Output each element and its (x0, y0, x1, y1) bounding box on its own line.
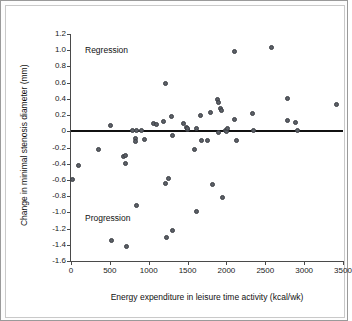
y-tick-mark (67, 245, 71, 246)
data-point (163, 181, 168, 186)
data-point (210, 182, 215, 187)
zero-reference-line (71, 130, 343, 132)
y-tick-label: -0.8 (52, 192, 66, 200)
x-axis-title: Energy expenditure in leisure time activ… (70, 293, 344, 302)
x-tick-mark (265, 261, 266, 265)
x-tick-mark (188, 261, 189, 265)
data-point (293, 120, 298, 125)
y-tick-mark (67, 99, 71, 100)
y-tick-label: -0.4 (52, 160, 66, 168)
data-point (142, 137, 147, 142)
x-tick-mark (71, 261, 72, 265)
x-tick-mark (343, 261, 344, 265)
x-tick-label: 3500 (334, 267, 352, 275)
data-point (96, 147, 101, 152)
data-point (194, 126, 199, 131)
scatter-plot-area: 1.21.00.80.60.40.20-0.2-0.4-0.6-0.8-1.0-… (71, 34, 343, 261)
y-tick-label: -1.4 (52, 241, 66, 249)
data-point (192, 147, 197, 152)
x-tick-mark (226, 261, 227, 265)
data-point (199, 138, 204, 143)
x-tick-label: 500 (103, 267, 116, 275)
y-tick-label: 0.6 (55, 79, 66, 87)
x-axis-line (70, 261, 344, 262)
data-point (269, 45, 274, 50)
y-tick-mark (67, 164, 71, 165)
y-tick-label: -1.6 (52, 257, 66, 265)
data-point (208, 110, 213, 115)
y-axis-title: Change in minimal stenosis diameter (mm) (20, 35, 29, 255)
data-point (219, 108, 224, 113)
data-point (170, 228, 175, 233)
x-tick-label: 0 (69, 267, 73, 275)
data-point (295, 128, 300, 133)
y-tick-mark (67, 229, 71, 230)
data-point (154, 122, 159, 127)
y-tick-label: -0.6 (52, 176, 66, 184)
y-tick-label: 0.8 (55, 62, 66, 70)
data-point (216, 100, 221, 105)
data-point (163, 81, 168, 86)
y-tick-mark (67, 66, 71, 67)
y-tick-mark (67, 83, 71, 84)
x-tick-label: 2000 (218, 267, 236, 275)
data-point (234, 138, 239, 143)
data-point (124, 244, 129, 249)
data-point (76, 163, 81, 168)
y-tick-mark (67, 148, 71, 149)
data-point (250, 111, 255, 116)
y-tick-label: 0.4 (55, 95, 66, 103)
x-tick-label: 1000 (140, 267, 158, 275)
y-tick-label: -1.2 (52, 225, 66, 233)
data-point (123, 153, 128, 158)
y-tick-mark (67, 212, 71, 213)
data-point (194, 209, 199, 214)
data-point (109, 238, 114, 243)
data-point (166, 176, 171, 181)
y-tick-label: 0 (62, 127, 66, 135)
data-point (123, 161, 128, 166)
y-tick-mark (67, 196, 71, 197)
data-point (170, 133, 175, 138)
x-tick-label: 3000 (295, 267, 313, 275)
data-point (161, 119, 166, 124)
data-point (70, 177, 75, 182)
y-tick-mark (67, 131, 71, 132)
y-tick-mark (67, 34, 71, 35)
figure-inner-border: 1.21.00.80.60.40.20-0.2-0.4-0.6-0.8-1.0-… (5, 5, 345, 318)
data-point (216, 130, 221, 135)
x-tick-mark (304, 261, 305, 265)
y-tick-label: 1.2 (55, 30, 66, 38)
data-point (225, 126, 230, 131)
x-tick-mark (149, 261, 150, 265)
y-tick-label: 1.0 (55, 46, 66, 54)
data-point (232, 117, 237, 122)
annotation-regression: Regression (85, 46, 128, 55)
y-tick-mark (67, 115, 71, 116)
data-point (108, 123, 113, 128)
y-tick-mark (67, 50, 71, 51)
data-point (134, 128, 139, 133)
data-point (220, 195, 225, 200)
data-point (133, 139, 138, 144)
x-tick-mark (110, 261, 111, 265)
data-point (164, 235, 169, 240)
data-point (205, 138, 210, 143)
data-point (285, 118, 290, 123)
x-tick-label: 1500 (179, 267, 197, 275)
data-point (232, 49, 237, 54)
data-point (134, 203, 139, 208)
y-tick-label: -0.2 (52, 144, 66, 152)
annotation-progression: Progression (85, 214, 130, 223)
y-tick-label: -1.0 (52, 208, 66, 216)
y-tick-label: 0.2 (55, 111, 66, 119)
data-point (334, 102, 339, 107)
data-point (169, 114, 174, 119)
data-point (285, 96, 290, 101)
x-tick-label: 2500 (256, 267, 274, 275)
data-point (198, 113, 203, 118)
